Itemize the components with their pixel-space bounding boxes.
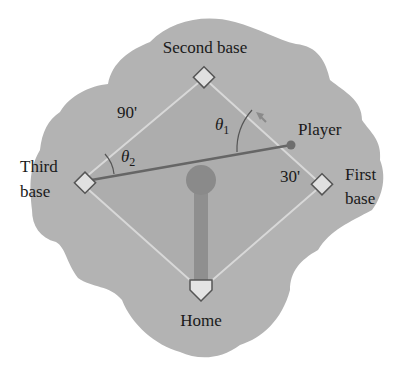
- theta2-subscript: 2: [129, 155, 135, 169]
- side-length-label: 90': [117, 103, 137, 122]
- first-base-label-line2: base: [345, 189, 375, 208]
- player-marker: [287, 141, 296, 150]
- third-base-label-line2: base: [20, 182, 50, 201]
- mound-stem: [194, 182, 208, 282]
- third-base-label-line1: Third: [20, 157, 58, 176]
- pitchers-mound: [186, 165, 216, 195]
- player-label: Player: [298, 120, 342, 139]
- baseball-diamond-diagram: Second base 90' Player Third base 30' Fi…: [0, 0, 414, 371]
- theta1-subscript: 1: [223, 123, 229, 137]
- first-base-label-line1: First: [345, 165, 376, 184]
- theta2-symbol: θ: [121, 147, 129, 166]
- second-base-label: Second base: [163, 38, 248, 57]
- player-distance-label: 30': [280, 167, 300, 186]
- theta1-symbol: θ: [215, 115, 223, 134]
- home-label: Home: [180, 311, 222, 330]
